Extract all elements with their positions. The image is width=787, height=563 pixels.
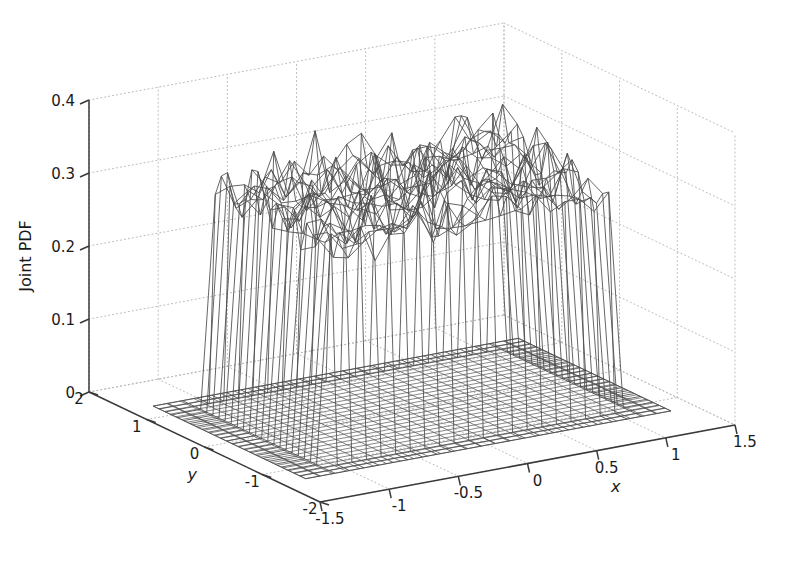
z-tick (80, 246, 89, 250)
gridline-floor-x (504, 315, 735, 425)
z-tick (80, 100, 89, 104)
x-tick-label: -0.5 (454, 484, 483, 502)
base-mesh-line (272, 395, 637, 463)
x-tick-label: 1.5 (733, 433, 757, 451)
surface-plot: 00.10.20.30.4210-1-2-1.5-1-0.500.511.5Jo… (0, 0, 787, 563)
z-tick (80, 173, 89, 177)
z-tick-label: 0.3 (51, 165, 75, 183)
base-mesh-line (283, 400, 648, 468)
z-tick-label: 0.1 (51, 311, 75, 329)
y-tick-label: -1 (245, 473, 260, 491)
gridline-z2 (504, 23, 735, 133)
surface-mesh-line-x (159, 341, 524, 409)
surface-mesh-line-y (197, 170, 349, 471)
z-axis-title: Joint PDF (16, 220, 35, 293)
z-tick (80, 319, 89, 323)
x-tick-label: -1 (392, 497, 407, 515)
y-tick (320, 502, 329, 505)
figure-canvas: 00.10.20.30.4210-1-2-1.5-1-0.500.511.5Jo… (0, 0, 787, 563)
x-tick-label: 1 (671, 446, 681, 464)
x-tick-label: -1.5 (315, 510, 344, 528)
base-mesh-line (164, 344, 529, 412)
base-mesh-line (244, 381, 609, 449)
base-mesh-line (176, 349, 541, 417)
base-mesh-line (249, 384, 614, 452)
x-tick (528, 464, 530, 473)
z-tick-label: 0.4 (51, 92, 75, 110)
grid-lines (89, 23, 735, 502)
base-mesh-line (204, 363, 569, 431)
y-tick-label: 0 (190, 445, 200, 463)
y-tick-label: 1 (132, 418, 142, 436)
base-mesh-line (255, 387, 620, 455)
y-tick-label: 2 (74, 390, 84, 408)
surface-mesh-line-y (460, 104, 612, 422)
surface-mesh-line-x (165, 344, 530, 412)
base-mesh-line (238, 379, 603, 447)
x-tick-label: 0 (533, 472, 543, 490)
surface-mesh-line-y (153, 406, 305, 479)
pdf-surface-mesh (153, 104, 671, 478)
surface-mesh-line-x (178, 117, 543, 418)
x-axis-title: x (610, 477, 621, 496)
base-mesh-line (221, 371, 586, 439)
y-axis-title: y (187, 465, 198, 484)
x-tick (666, 438, 668, 447)
base-mesh-line (277, 397, 642, 465)
x-tick-label: 0.5 (595, 459, 619, 477)
z-tick-label: 0.2 (51, 238, 75, 256)
